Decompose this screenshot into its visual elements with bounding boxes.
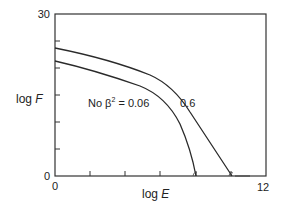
- curve-beta-0-06: [55, 61, 196, 176]
- x-axis-ticks: [90, 171, 231, 176]
- x-tick-right: 12: [257, 181, 269, 193]
- curve-label-0-6: 0.6: [180, 97, 195, 109]
- x-tick-left: 0: [52, 180, 58, 192]
- plot-frame: [55, 14, 266, 176]
- y-axis-ticks: [55, 41, 60, 149]
- chart: 30 0 0 12 log F log E No β2 = 0.06 0.6: [0, 0, 282, 213]
- x-axis-label: log E: [142, 187, 170, 201]
- y-axis-label: log F: [16, 92, 43, 106]
- y-tick-top: 30: [38, 8, 50, 20]
- y-tick-bottom: 0: [44, 170, 50, 182]
- curve-label-0-06: No β2 = 0.06: [88, 96, 149, 109]
